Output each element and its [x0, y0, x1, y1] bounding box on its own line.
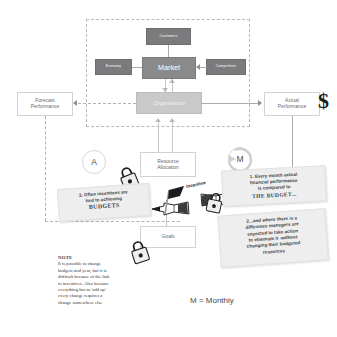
- note-block: NOTE It is possible to change budgets mi…: [58, 255, 172, 306]
- edge-resource-org-arrow-b: [169, 118, 175, 122]
- edge-actual-down: [292, 116, 293, 168]
- node-forecast-performance[interactable]: Forecast Performance: [17, 92, 73, 116]
- node-actual-line2: Performance: [278, 104, 307, 110]
- edge-resource-org-arrow-a: [155, 118, 161, 122]
- cycle-marker-annual-label: A: [91, 157, 97, 167]
- callout-incentives[interactable]: 3. Often incentives are tied to achievin…: [57, 183, 151, 222]
- node-actual-performance[interactable]: Actual Performance: [264, 92, 320, 116]
- edge-org-forecast: [78, 103, 136, 104]
- node-customers[interactable]: Customers: [146, 28, 191, 45]
- node-customers-label: Customers: [159, 35, 177, 39]
- node-economy[interactable]: Economy: [95, 59, 132, 75]
- diagram-canvas: Customers Economy Market Competitors Org…: [0, 0, 337, 337]
- note-line7: change somewhere else: [58, 300, 172, 306]
- node-forecast-line2: Performance: [31, 104, 60, 110]
- edge-forecast-down: [45, 116, 46, 221]
- edge-competitors-market-arrow: [196, 64, 200, 70]
- edge-org-market-arrow-up: [169, 79, 175, 83]
- cycle-marker-annual: A: [82, 150, 106, 174]
- node-market[interactable]: Market: [142, 57, 196, 79]
- edge-org-actual: [202, 103, 259, 104]
- node-organisation[interactable]: Organisation: [136, 92, 202, 114]
- callout-monthly-comparison[interactable]: 1. Every month actual financial performa…: [221, 165, 327, 206]
- node-resource-allocation[interactable]: Resource Allocation: [140, 152, 196, 177]
- node-competitors-label: Competitors: [216, 65, 236, 69]
- node-resource-line2: Allocation: [157, 165, 179, 171]
- node-market-label: Market: [158, 64, 180, 72]
- node-organisation-label: Organisation: [153, 100, 185, 106]
- node-economy-label: Economy: [106, 65, 122, 69]
- node-goals-label: Goals: [161, 234, 174, 240]
- legend-monthly: M = Monthly: [190, 296, 234, 305]
- edge-org-actual-arrow: [258, 100, 262, 106]
- node-competitors[interactable]: Competitors: [206, 59, 246, 75]
- flag-icon: [153, 182, 187, 216]
- edge-resource-org-b: [172, 120, 173, 152]
- edge-org-forecast-arrow: [73, 100, 77, 106]
- dollar-icon: $: [318, 90, 329, 112]
- edge-resource-org-a: [158, 120, 159, 152]
- callout-take-action[interactable]: 2...and where there is a difference mana…: [217, 208, 328, 267]
